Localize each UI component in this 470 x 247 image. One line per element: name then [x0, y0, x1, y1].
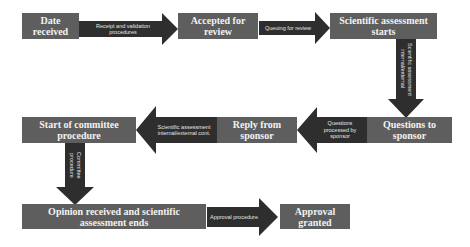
arrow-approval-procedure: Approval procedure	[207, 198, 278, 236]
arrow-scientific-assessment: Scientific assessment internal/external	[388, 39, 424, 118]
arrow-label: Scientific assessment internal/external	[396, 40, 416, 98]
arrow-receipt-validation: Receipt and validation procedures	[79, 13, 178, 45]
node-label: Reply from sponsor	[220, 119, 294, 141]
node-label: Scientific assessment starts	[333, 15, 434, 37]
node-label: Questions to sponsor	[370, 119, 449, 141]
node-scientific-assessment-starts: Scientific assessment starts	[330, 13, 437, 39]
arrow-label: Approval procedure	[209, 207, 259, 227]
arrow-label: Queuing for review	[261, 21, 315, 35]
node-label: Start of committee procedure	[25, 119, 133, 141]
node-reply-from-sponsor: Reply from sponsor	[217, 117, 297, 143]
arrow-scientific-assessment-cont: Scientific assessment internal/external …	[136, 106, 217, 154]
node-approval-granted: Approval granted	[280, 204, 350, 229]
arrow-label: Committee procedure	[65, 144, 85, 186]
node-questions-to-sponsor: Questions to sponsor	[367, 117, 452, 143]
arrow-questions-processed: Questions processed by sponsor	[297, 107, 367, 153]
arrow-queuing-for-review: Queuing for review	[259, 12, 330, 44]
arrow-committee-procedure: Committee procedure	[56, 143, 94, 205]
node-label: Accepted for review	[181, 15, 255, 37]
node-label: Date received	[25, 15, 76, 37]
node-date-received: Date received	[22, 13, 79, 39]
node-accepted-for-review: Accepted for review	[178, 13, 258, 39]
node-start-of-committee-procedure: Start of committee procedure	[22, 117, 136, 143]
node-label: Approval granted	[283, 206, 347, 228]
node-opinion-received: Opinion received and scientific assessme…	[22, 204, 206, 229]
arrow-label: Scientific assessment internal/external …	[152, 117, 216, 143]
node-label: Opinion received and scientific assessme…	[25, 206, 203, 228]
arrow-label: Receipt and validation procedures	[85, 21, 161, 37]
arrow-label: Questions processed by sponsor	[315, 117, 365, 143]
